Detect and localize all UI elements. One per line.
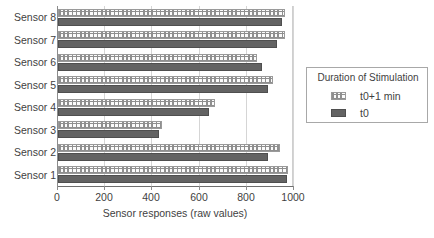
legend-label-t0: t0 xyxy=(360,107,369,119)
x-tick-400 xyxy=(151,186,152,190)
legend-item-t0plus1[interactable]: t0+1 min xyxy=(307,89,429,103)
category-label-sensor-2: Sensor 2 xyxy=(14,146,56,158)
bar-sensor-1-t0 xyxy=(58,175,287,183)
x-tick-label-200: 200 xyxy=(95,191,113,203)
legend-swatch-icon-t0plus1 xyxy=(331,92,346,100)
legend: Duration of Stimulation t0+1 min t0 xyxy=(306,67,428,123)
x-axis-title: Sensor responses (raw values) xyxy=(57,207,293,219)
x-tick-label-600: 600 xyxy=(190,191,208,203)
legend-title: Duration of Stimulation xyxy=(307,72,429,83)
bar-sensor-5-t01min xyxy=(58,76,273,84)
category-label-sensor-5: Sensor 5 xyxy=(14,79,56,91)
gridline-1000 xyxy=(293,6,294,186)
category-label-sensor-4: Sensor 4 xyxy=(14,101,56,113)
bar-sensor-3-t0 xyxy=(58,130,159,138)
x-tick-800 xyxy=(246,186,247,190)
legend-swatch-icon-t0 xyxy=(331,109,346,117)
category-label-sensor-3: Sensor 3 xyxy=(14,124,56,136)
x-tick-label-800: 800 xyxy=(237,191,255,203)
bar-sensor-8-t01min xyxy=(58,9,285,17)
bar-chart: 02004006008001000 Sensor 1Sensor 2Sensor… xyxy=(0,0,434,238)
bar-sensor-4-t01min xyxy=(58,99,215,107)
bar-sensor-1-t01min xyxy=(58,166,288,174)
category-label-sensor-7: Sensor 7 xyxy=(14,34,56,46)
bar-sensor-3-t01min xyxy=(58,121,162,129)
x-tick-label-400: 400 xyxy=(142,191,160,203)
x-tick-label-1000: 1000 xyxy=(281,191,304,203)
category-label-sensor-6: Sensor 6 xyxy=(14,56,56,68)
x-tick-200 xyxy=(104,186,105,190)
category-label-sensor-1: Sensor 1 xyxy=(14,169,56,181)
bar-sensor-6-t0 xyxy=(58,63,262,71)
bar-sensor-5-t0 xyxy=(58,85,268,93)
x-tick-600 xyxy=(199,186,200,190)
category-label-sensor-8: Sensor 8 xyxy=(14,11,56,23)
bar-sensor-2-t0 xyxy=(58,153,268,161)
x-axis-line xyxy=(57,186,293,187)
x-tick-1000 xyxy=(293,186,294,190)
bar-sensor-4-t0 xyxy=(58,108,209,116)
legend-label-t0plus1: t0+1 min xyxy=(360,90,401,102)
x-tick-0 xyxy=(57,186,58,190)
legend-item-t0[interactable]: t0 xyxy=(307,106,429,120)
bar-sensor-8-t0 xyxy=(58,18,282,26)
x-tick-label-0: 0 xyxy=(54,191,60,203)
bar-sensor-7-t0 xyxy=(58,40,277,48)
bar-sensor-7-t01min xyxy=(58,31,285,39)
bar-sensor-2-t01min xyxy=(58,144,280,152)
bar-sensor-6-t01min xyxy=(58,54,257,62)
